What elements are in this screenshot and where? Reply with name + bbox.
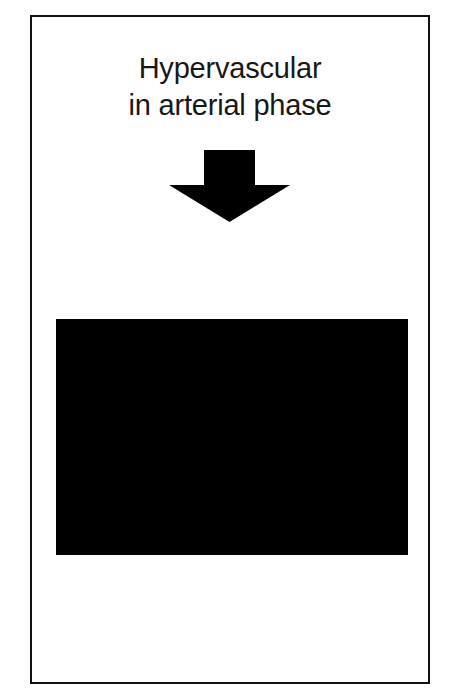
arrow-down-block-icon: [169, 150, 290, 222]
slide-frame: Hypervascular in arterial phase: [30, 15, 430, 684]
caption-block: Hypervascular in arterial phase: [32, 50, 428, 124]
caption-line-2: in arterial phase: [32, 87, 428, 124]
ct-image-background: [56, 319, 408, 555]
ct-scan-figure: [56, 319, 408, 555]
caption-line-1: Hypervascular: [32, 50, 428, 87]
